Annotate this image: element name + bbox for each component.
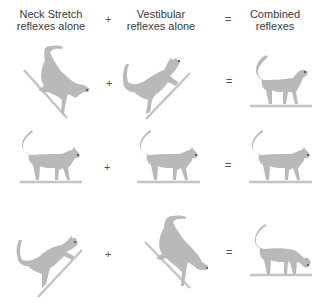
- cat-silhouette: [123, 58, 180, 114]
- cat-eye: [74, 241, 76, 243]
- cat-silhouette: [22, 130, 80, 180]
- cat-silhouette: [17, 236, 78, 288]
- cat-silhouette: [140, 130, 198, 180]
- cat-silhouette: [255, 224, 311, 274]
- row3-vestibular-cat: [145, 216, 208, 288]
- cat-silhouette: [256, 55, 308, 104]
- row1-combined-cat: [250, 55, 312, 106]
- row3-neck-stretch-cat: [17, 236, 82, 297]
- cat-silhouette: [156, 216, 208, 286]
- cat-eye: [195, 154, 197, 156]
- cat-eye: [178, 60, 180, 62]
- cat-silhouette: [38, 46, 90, 114]
- row2-neck-stretch-cat: [20, 130, 82, 182]
- cat-eye: [86, 89, 88, 91]
- row2-vestibular-cat: [137, 130, 200, 182]
- row2-combined-cat: [249, 130, 312, 182]
- cat-eye: [304, 71, 306, 73]
- row1-vestibular-cat: [123, 58, 190, 119]
- cat-eye: [307, 154, 309, 156]
- cat-diagram: [0, 0, 328, 303]
- cat-silhouette: [252, 130, 310, 180]
- row3-combined-cat: [250, 224, 312, 275]
- cat-eye: [307, 264, 309, 266]
- cat-eye: [206, 267, 208, 269]
- row1-neck-stretch-cat: [24, 46, 90, 118]
- cat-eye: [77, 154, 79, 156]
